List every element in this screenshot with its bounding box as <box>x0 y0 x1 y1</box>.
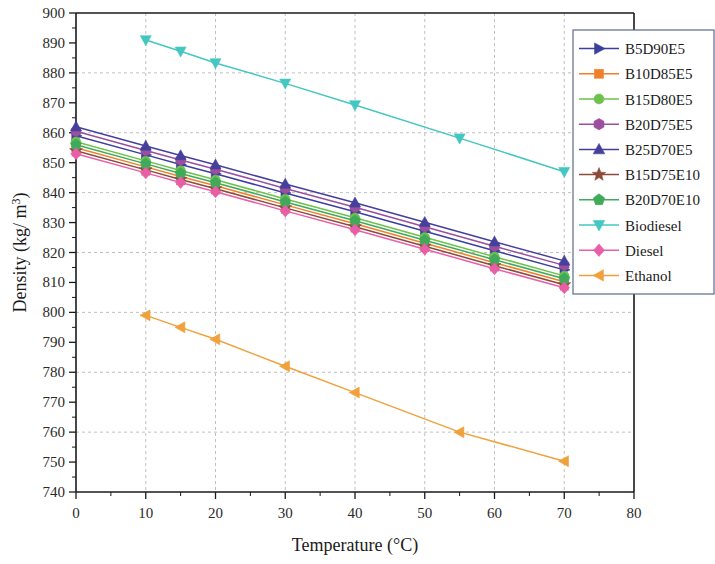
y-axis-tick-labels: 7407507607707807908008108208308408508608… <box>43 5 66 500</box>
y-tick-label: 830 <box>43 215 66 231</box>
legend-label: B20D75E5 <box>625 117 693 133</box>
x-tick-label: 10 <box>138 505 153 521</box>
y-tick-label: 780 <box>43 364 66 380</box>
legend-label: B15D75E10 <box>625 167 700 183</box>
data-series <box>70 36 571 467</box>
data-point <box>210 334 220 345</box>
legend-label: Diesel <box>625 243 663 259</box>
data-point <box>454 427 464 438</box>
legend-label: B25D70E5 <box>625 142 693 158</box>
x-tick-label: 50 <box>417 505 432 521</box>
legend-label: B15D80E5 <box>625 92 693 108</box>
data-point <box>71 121 82 131</box>
legend-label: B5D90E5 <box>625 41 685 57</box>
y-tick-label: 740 <box>43 484 66 500</box>
x-tick-label: 20 <box>208 505 223 521</box>
y-tick-label: 840 <box>43 185 66 201</box>
x-tick-label: 60 <box>487 505 502 521</box>
legend-marker-icon <box>594 94 604 104</box>
density-vs-temperature-chart: 01020304050607080 7407507607707807908008… <box>0 0 715 564</box>
x-tick-label: 80 <box>627 505 642 521</box>
y-tick-label: 850 <box>43 155 66 171</box>
data-point <box>175 322 185 333</box>
x-tick-label: 70 <box>557 505 572 521</box>
legend-label: Ethanol <box>625 268 672 284</box>
legend-label: B20D70E10 <box>625 192 700 208</box>
y-tick-label: 880 <box>43 65 66 81</box>
y-tick-label: 820 <box>43 245 66 261</box>
y-tick-label: 750 <box>43 454 66 470</box>
legend-marker-icon <box>594 118 604 129</box>
chart-figure: 01020304050607080 7407507607707807908008… <box>0 0 715 564</box>
legend-marker-icon <box>595 69 604 78</box>
y-tick-label: 810 <box>43 274 66 290</box>
data-point <box>280 361 290 372</box>
series-ethanol <box>140 310 569 467</box>
y-tick-label: 790 <box>43 334 66 350</box>
y-tick-label: 800 <box>43 304 66 320</box>
grid-lines <box>76 13 634 492</box>
legend-label: Biodiesel <box>625 218 682 234</box>
y-tick-label: 890 <box>43 35 66 51</box>
y-tick-label: 900 <box>43 5 66 21</box>
x-tick-label: 40 <box>348 505 363 521</box>
y-tick-label: 870 <box>43 95 66 111</box>
y-tick-label: 770 <box>43 394 66 410</box>
y-tick-label: 760 <box>43 424 66 440</box>
data-point <box>559 167 570 177</box>
data-point <box>559 456 569 467</box>
x-tick-label: 0 <box>72 505 80 521</box>
data-point <box>349 387 359 398</box>
x-tick-label: 30 <box>278 505 293 521</box>
data-point <box>140 310 150 321</box>
y-axis-title: Density (kg/ m3) <box>9 193 31 313</box>
x-axis-tick-labels: 01020304050607080 <box>72 505 641 521</box>
legend-label: B10D85E5 <box>625 66 693 82</box>
y-tick-label: 860 <box>43 125 66 141</box>
chart-legend: B5D90E5B10D85E5B15D80E5B20D75E5B25D70E5B… <box>573 30 714 294</box>
x-axis-title: Temperature (°C) <box>292 535 418 556</box>
